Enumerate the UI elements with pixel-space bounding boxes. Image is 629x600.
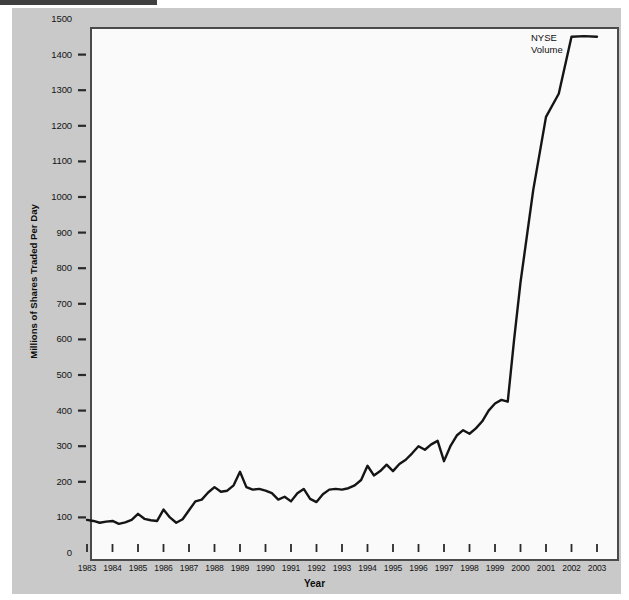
y-tick-label: 1100 bbox=[32, 155, 72, 166]
chart-figure: Stock Exchanges Stock Exchanges (Continu… bbox=[0, 0, 629, 600]
y-tick-label: 200 bbox=[32, 476, 72, 487]
y-tick-label: 300 bbox=[32, 440, 72, 451]
x-tick-label: 2003 bbox=[580, 563, 614, 573]
y-tick-label: 400 bbox=[32, 405, 72, 416]
chart-outer-panel: Stock Exchanges Stock Exchanges (Continu… bbox=[12, 8, 621, 594]
y-tick-label: 1300 bbox=[32, 84, 72, 95]
y-tick-label: 1000 bbox=[32, 191, 72, 202]
series-annotation-nyse-volume: NYSE Volume bbox=[531, 32, 563, 55]
y-tick-label: 800 bbox=[32, 262, 72, 273]
y-tick-label: 1500 bbox=[32, 13, 72, 24]
top-rule-decoration bbox=[0, 0, 157, 5]
y-tick-label: 0 bbox=[32, 547, 72, 558]
x-axis-label: Year bbox=[0, 578, 629, 589]
y-tick-label: 700 bbox=[32, 298, 72, 309]
y-tick-label: 500 bbox=[32, 369, 72, 380]
y-tick-label: 900 bbox=[32, 227, 72, 238]
y-tick-label: 1400 bbox=[32, 49, 72, 60]
y-tick-label: 600 bbox=[32, 333, 72, 344]
y-tick-label: 100 bbox=[32, 511, 72, 522]
plot-area bbox=[90, 27, 619, 561]
y-tick-label: 1200 bbox=[32, 120, 72, 131]
